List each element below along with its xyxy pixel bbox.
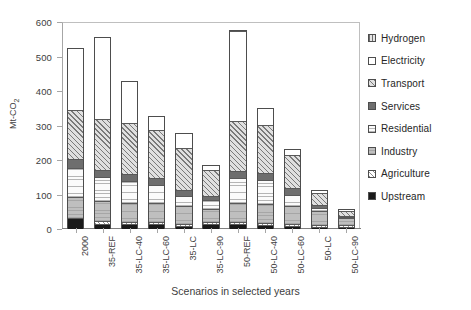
stacked-bar[interactable]	[338, 209, 355, 229]
bar-slot	[62, 22, 89, 229]
bar-segment-agriculture[interactable]	[285, 225, 300, 227]
x-axis-tick-label: 35-LC-40	[134, 236, 144, 274]
bar-segment-industry[interactable]	[68, 198, 83, 219]
bar-segment-hydrogen[interactable]	[230, 31, 245, 32]
bar-segment-transport[interactable]	[122, 124, 137, 175]
bar-segment-services[interactable]	[258, 174, 273, 181]
bar-segment-electricity[interactable]	[312, 191, 327, 194]
y-axis-tick-label: 0	[18, 224, 52, 235]
bar-segment-electricity[interactable]	[122, 82, 137, 124]
bar-segment-transport[interactable]	[230, 122, 245, 172]
bar-segment-agriculture[interactable]	[230, 223, 245, 225]
bar-segment-transport[interactable]	[176, 149, 191, 192]
legend-item[interactable]: Hydrogen	[368, 27, 471, 50]
bar-segment-residential[interactable]	[203, 201, 218, 210]
bar-segment-services[interactable]	[68, 160, 83, 169]
legend-item[interactable]: Electricity	[368, 50, 471, 73]
x-axis-tick-label: 50-REF	[242, 236, 252, 267]
bar-segment-transport[interactable]	[312, 194, 327, 206]
bar-segment-industry[interactable]	[122, 204, 137, 223]
bar-segment-transport[interactable]	[339, 212, 354, 217]
bar-segment-services[interactable]	[176, 191, 191, 196]
y-axis-tick-mark	[57, 229, 62, 230]
legend-swatch-industry-icon	[368, 147, 376, 155]
stacked-bar[interactable]	[311, 190, 328, 229]
bar-segment-industry[interactable]	[176, 207, 191, 224]
bar-segment-services[interactable]	[339, 217, 354, 218]
x-axis-tick-mark	[76, 228, 77, 233]
bar-segment-industry[interactable]	[339, 219, 354, 226]
stacked-bar[interactable]	[284, 149, 301, 229]
legend-item[interactable]: Services	[368, 95, 471, 118]
bar-segment-residential[interactable]	[312, 209, 327, 211]
legend-item[interactable]: Transport	[368, 72, 471, 95]
bar-segment-electricity[interactable]	[149, 117, 164, 131]
bar-segment-industry[interactable]	[230, 204, 245, 224]
legend-item[interactable]: Upstream	[368, 185, 471, 208]
legend-item[interactable]: Residential	[368, 117, 471, 140]
bar-segment-residential[interactable]	[122, 182, 137, 204]
x-axis-tick-mark	[103, 228, 104, 233]
bar-segment-residential[interactable]	[68, 169, 83, 198]
x-axis-tick-mark	[157, 228, 158, 233]
bar-segment-agriculture[interactable]	[258, 224, 273, 226]
bar-segment-transport[interactable]	[285, 156, 300, 189]
bar-segment-electricity[interactable]	[203, 166, 218, 172]
bar-segment-agriculture[interactable]	[203, 223, 218, 225]
bar-segment-agriculture[interactable]	[95, 222, 110, 224]
bar-segment-transport[interactable]	[203, 171, 218, 196]
bar-segment-electricity[interactable]	[258, 109, 273, 125]
bar-segment-industry[interactable]	[312, 212, 327, 226]
y-axis-tick-label: 300	[18, 120, 52, 131]
bar-segment-agriculture[interactable]	[176, 225, 191, 227]
stacked-bar[interactable]	[67, 48, 84, 229]
bar-segment-transport[interactable]	[95, 120, 110, 171]
bar-segment-services[interactable]	[95, 171, 110, 178]
bar-segment-agriculture[interactable]	[149, 223, 164, 225]
bar-segment-residential[interactable]	[149, 186, 164, 204]
y-axis-tick-label: 600	[18, 17, 52, 28]
bar-segment-services[interactable]	[285, 189, 300, 195]
bar-segment-electricity[interactable]	[68, 49, 83, 111]
bar-segment-residential[interactable]	[230, 179, 245, 203]
bar-slot	[170, 22, 197, 229]
legend-item[interactable]: Industry	[368, 140, 471, 163]
bar-segment-agriculture[interactable]	[122, 223, 137, 225]
y-axis-tick-label: 100	[18, 189, 52, 200]
stacked-bar[interactable]	[257, 108, 274, 229]
legend-swatch-services-icon	[368, 102, 376, 110]
bar-segment-electricity[interactable]	[230, 32, 245, 122]
bar-segment-transport[interactable]	[258, 126, 273, 175]
bar-segment-electricity[interactable]	[285, 150, 300, 157]
bar-segment-residential[interactable]	[176, 197, 191, 208]
bar-segment-services[interactable]	[230, 172, 245, 179]
stacked-bar[interactable]	[148, 116, 165, 229]
stacked-bar[interactable]	[202, 165, 219, 230]
bar-segment-electricity[interactable]	[339, 210, 354, 211]
y-axis-tick-label: 400	[18, 86, 52, 97]
bar-segment-residential[interactable]	[285, 196, 300, 207]
bar-segment-transport[interactable]	[149, 131, 164, 179]
bar-segment-electricity[interactable]	[176, 134, 191, 149]
bar-segment-services[interactable]	[203, 197, 218, 201]
bar-segment-transport[interactable]	[68, 111, 83, 160]
bar-segment-residential[interactable]	[339, 218, 354, 220]
stacked-bar[interactable]	[94, 37, 111, 229]
bar-segment-industry[interactable]	[149, 204, 164, 222]
bar-segment-services[interactable]	[312, 206, 327, 209]
y-axis-tick-label: 200	[18, 155, 52, 166]
bar-segment-residential[interactable]	[95, 178, 110, 202]
bar-segment-industry[interactable]	[95, 202, 110, 222]
bar-segment-residential[interactable]	[258, 181, 273, 205]
bar-segment-industry[interactable]	[258, 205, 273, 224]
stacked-bar[interactable]	[121, 81, 138, 229]
bar-segment-services[interactable]	[149, 179, 164, 186]
legend-item[interactable]: Agriculture	[368, 163, 471, 186]
stacked-bar[interactable]	[229, 30, 246, 229]
bar-segment-industry[interactable]	[203, 210, 218, 224]
bar-segment-electricity[interactable]	[95, 38, 110, 120]
stacked-bar[interactable]	[175, 133, 192, 229]
bar-segment-industry[interactable]	[285, 207, 300, 225]
bar-segment-services[interactable]	[122, 175, 137, 182]
x-axis-tick-label: 35-LC-60	[161, 236, 171, 274]
